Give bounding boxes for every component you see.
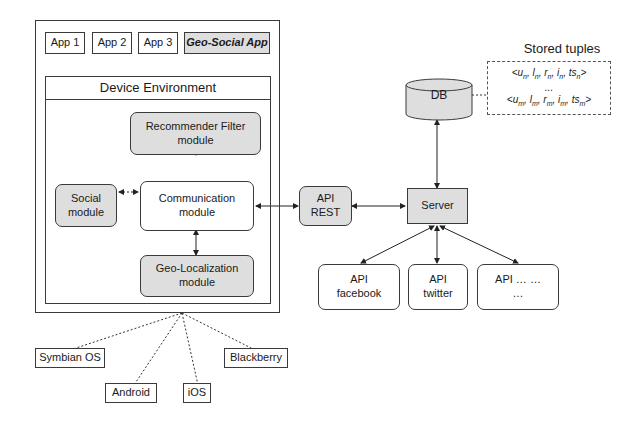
geo-social-app-box: Geo-Social App [184,32,270,54]
stored-tuples-box: <un, ln, rn, in, tsn> ... <um, lm, rm, i… [487,61,611,115]
geo-localization-label: Geo-Localization module [150,262,245,290]
server-label: Server [421,199,453,213]
api-other-label: API … … … [493,273,543,301]
platform-symbian-label: Symbian OS [39,351,101,365]
app-2-label: App 2 [98,36,127,50]
platform-blackberry-label: Blackberry [230,351,282,365]
api-other-box: API … … … [477,264,559,310]
platform-blackberry: Blackberry [224,348,288,368]
app-1-label: App 1 [51,36,80,50]
device-environment-header: Device Environment [45,76,271,100]
geo-social-app-label: Geo-Social App [186,36,268,50]
platform-ios: iOS [183,383,211,403]
app-2-box: App 2 [92,32,132,54]
app-3-box: App 3 [138,32,178,54]
api-facebook-box: API facebook [318,264,400,310]
recommender-filter-module: Recommender Filter module [130,112,261,155]
platform-android-label: Android [112,386,150,400]
recommender-filter-label: Recommender Filter module [146,120,246,148]
db-label: DB [405,88,473,102]
api-facebook-label: API facebook [334,273,384,301]
social-module-label: Social module [61,192,111,220]
stored-tuples-title: Stored tuples [497,41,627,56]
device-environment-label: Device Environment [100,80,216,96]
app-3-label: App 3 [144,36,173,50]
app-1-box: App 1 [45,32,85,54]
platform-ios-label: iOS [188,386,206,400]
tuple-row-n: <un, ln, rn, in, tsn> [488,65,610,83]
api-rest-box: API REST [299,186,352,226]
platform-symbian: Symbian OS [35,348,105,368]
platform-android: Android [105,383,157,403]
api-twitter-box: API twitter [408,264,468,310]
tuple-row-m: <um, lm, rm, im, tsm> [488,92,610,110]
tuple-row-ellipsis: ... [488,83,610,92]
communication-module-label: Communication module [152,192,242,220]
communication-module: Communication module [140,181,254,231]
social-module: Social module [55,184,117,227]
server-box: Server [407,188,468,224]
api-twitter-label: API twitter [418,273,458,301]
api-rest-label: API REST [311,192,341,220]
geo-localization-module: Geo-Localization module [140,255,254,297]
